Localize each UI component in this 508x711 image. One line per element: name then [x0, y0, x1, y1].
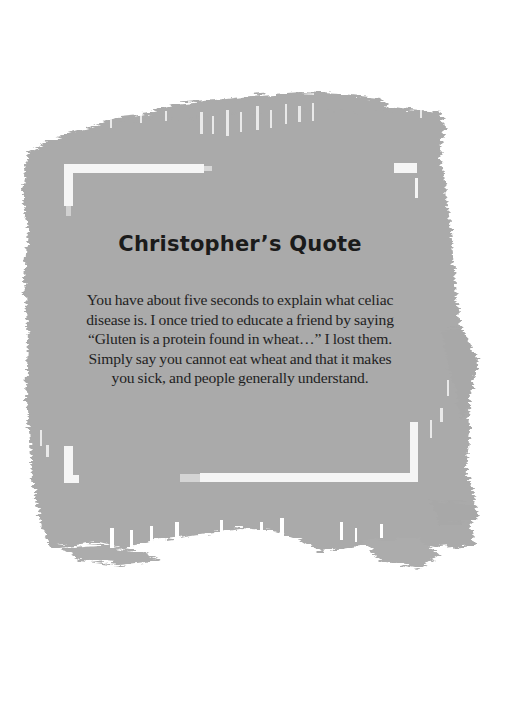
quote-line: Simply say you cannot eat wheat and that… [68, 349, 412, 369]
quote-line: “Gluten is a protein found in wheat…” I … [68, 329, 412, 349]
quote-line: You have about five seconds to explain w… [68, 290, 412, 310]
quote-title: Christopher’s Quote [60, 232, 420, 256]
quote-card: Christopher’s Quote You have about five … [60, 160, 420, 486]
quote-body: You have about five seconds to explain w… [68, 290, 412, 388]
quote-line: disease is. I once tried to educate a fr… [68, 310, 412, 330]
quote-line: you sick, and people generally understan… [68, 368, 412, 388]
page: Christopher’s Quote You have about five … [0, 0, 508, 711]
